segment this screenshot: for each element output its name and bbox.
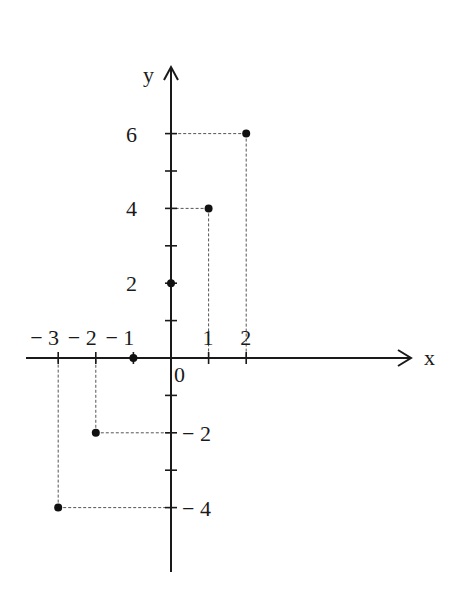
data-points (54, 130, 250, 512)
y-tick-label: 6 (126, 122, 137, 147)
x-tick-label: − 1 (105, 325, 134, 350)
y-tick-label: 2 (126, 271, 137, 296)
dashed-projection-lines (58, 134, 246, 508)
axes (26, 67, 411, 572)
coordinate-plane: xy0− 3− 2− 112642− 2− 4 (0, 0, 467, 616)
data-point (129, 354, 137, 362)
x-axis-label: x (424, 345, 435, 370)
x-tick-label: − 2 (68, 325, 97, 350)
tick-labels: xy0− 3− 2− 112642− 2− 4 (30, 62, 435, 521)
tick-marks (58, 134, 246, 508)
x-tick-label: 1 (203, 325, 214, 350)
data-point (242, 130, 250, 138)
data-point (54, 504, 62, 512)
x-tick-label: 2 (240, 325, 251, 350)
y-tick-label: − 2 (182, 421, 211, 446)
data-point (205, 204, 213, 212)
data-point (167, 279, 175, 287)
y-axis-label: y (143, 62, 154, 87)
x-tick-label: − 3 (30, 325, 59, 350)
origin-label: 0 (174, 362, 185, 387)
y-tick-label: − 4 (182, 496, 211, 521)
data-point (92, 429, 100, 437)
y-tick-label: 4 (126, 196, 137, 221)
